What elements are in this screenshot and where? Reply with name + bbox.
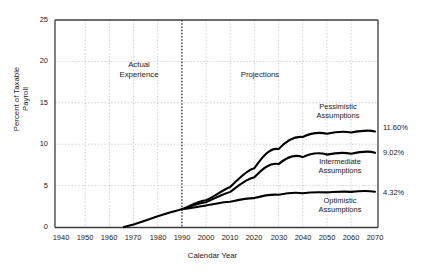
region-label-actual-line1: Actual <box>128 60 150 69</box>
end-value-optimistic: 4.32% <box>383 188 404 197</box>
series-label-optimistic-line1: Optimistic <box>324 196 357 205</box>
series-label-pessimistic-line1: Pessimistic <box>319 102 357 111</box>
end-value-pessimistic: 11.60% <box>383 123 408 132</box>
series-label-intermediate: Intermediate Assumptions <box>300 157 380 175</box>
series-label-optimistic: Optimistic Assumptions <box>302 196 378 214</box>
chart-container: 25 20 15 10 5 0 Percent of Taxable Payro… <box>0 0 425 274</box>
region-label-actual-line2: Experience <box>119 70 158 79</box>
end-value-intermediate: 9.02% <box>383 148 404 157</box>
y-tick-label: 25 <box>26 15 48 24</box>
region-label-actual-experience: Actual Experience <box>101 60 177 79</box>
series-label-pessimistic-line2: Assumptions <box>317 111 360 120</box>
y-tick-label: 5 <box>26 181 48 190</box>
series-label-intermediate-line2: Assumptions <box>319 166 362 175</box>
x-axis-title: Calendar Year <box>0 251 425 261</box>
series-label-pessimistic: Pessimistic Assumptions <box>300 102 376 120</box>
series-historical <box>124 209 182 227</box>
series-label-intermediate-line1: Intermediate <box>319 157 361 166</box>
series-label-optimistic-line2: Assumptions <box>319 205 362 214</box>
y-tick-label: 0 <box>26 222 48 231</box>
y-axis-title: Percent of Taxable Payroll <box>12 54 30 144</box>
region-label-projections: Projections <box>225 70 295 80</box>
x-tick-label: 2070 <box>360 233 390 242</box>
